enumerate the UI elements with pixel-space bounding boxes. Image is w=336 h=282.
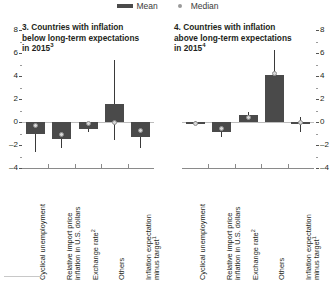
chart-legend: Mean Median: [0, 2, 336, 11]
chart-panel-3: 3. Countries with inflation below long-t…: [0, 18, 168, 282]
median-dot: [33, 123, 38, 128]
y-tick-label: 8: [320, 26, 324, 34]
y-tick-mark: [316, 145, 319, 146]
category-label-text: Inflation expectation minus target: [304, 214, 321, 280]
y-minor-tick: [316, 65, 318, 66]
category-label-text: Cyclical unemployment: [38, 204, 47, 280]
median-dot: [86, 121, 91, 126]
category-label-text: Others: [117, 258, 126, 280]
legend-label-median: Median: [191, 2, 219, 11]
mean-swatch-icon: [117, 4, 133, 8]
x-axis-category-label: Others: [118, 172, 126, 280]
y-tick-label: 0: [320, 118, 324, 126]
x-tick-mark: [48, 164, 49, 168]
y-tick-mark: [316, 30, 319, 31]
category-label-text: Exchange rate: [91, 232, 100, 280]
y-tick-label: 6: [320, 49, 324, 57]
category-labels-panel-3: Cyclical unemploymentRelative import pri…: [22, 170, 154, 282]
category-label-text: Others: [277, 258, 286, 280]
category-label-text: Cyclical unemployment: [198, 204, 207, 280]
category-label-superscript: 1: [311, 236, 317, 239]
category-label-superscript: 2: [250, 229, 256, 232]
median-dot: [193, 121, 198, 126]
x-tick-mark: [235, 164, 236, 168]
y-minor-tick: [316, 111, 318, 112]
legend-entry-median: Median: [172, 2, 219, 11]
category-label-superscript: 1: [151, 236, 157, 239]
legend-entry-mean: Mean: [117, 2, 157, 11]
median-dot: [298, 120, 303, 125]
y-axis-right: –4–202468: [316, 18, 336, 174]
chart-panel-4: 4. Countries with inflation above long-t…: [168, 18, 336, 282]
category-labels-panel-4: Cyclical unemploymentRelative import pri…: [182, 170, 314, 282]
category-label-superscript: 2: [90, 229, 96, 232]
x-axis-category-label: Exchange rate2: [252, 172, 260, 280]
x-axis-category-label: Inflation expectation minus target1: [145, 172, 162, 280]
x-axis-category-label: Others: [278, 172, 286, 280]
x-tick-mark: [101, 164, 102, 168]
y-tick-label: –2: [320, 141, 329, 149]
y-tick-mark: [316, 168, 319, 169]
plot-area-panel-3: [22, 18, 154, 174]
y-minor-tick: [316, 42, 318, 43]
median-dot: [138, 128, 143, 133]
median-dot-icon: [178, 4, 182, 8]
y-tick-mark: [316, 76, 319, 77]
plot-area-panel-4: [182, 18, 314, 174]
range-whisker: [114, 60, 115, 141]
category-label-text: Relative import price inflation in U.S. …: [225, 206, 242, 280]
x-axis-category-label: Relative import price inflation in U.S. …: [66, 172, 83, 280]
legend-label-mean: Mean: [136, 2, 157, 11]
y-axis-left: –4–202468: [0, 18, 20, 174]
y-tick-label: 8: [14, 26, 18, 34]
y-tick-label: 4: [320, 72, 324, 80]
y-tick-mark: [316, 99, 319, 100]
y-tick-mark: [316, 53, 319, 54]
y-tick-label: –2: [9, 141, 18, 149]
y-minor-tick: [316, 134, 318, 135]
x-tick-mark: [75, 164, 76, 168]
mean-bar: [265, 75, 284, 122]
x-axis-category-label: Cyclical unemployment: [39, 172, 47, 280]
x-tick-mark: [288, 164, 289, 168]
category-label-text: Exchange rate: [251, 232, 260, 280]
x-axis-category-label: Exchange rate2: [92, 172, 100, 280]
y-tick-label: 4: [14, 72, 18, 80]
y-minor-tick: [316, 157, 318, 158]
y-minor-tick: [316, 88, 318, 89]
category-label-text: Relative import price inflation in U.S. …: [65, 206, 82, 280]
x-tick-mark: [208, 164, 209, 168]
y-tick-mark: [316, 122, 319, 123]
y-tick-label: –4: [9, 164, 18, 172]
y-tick-label: 2: [14, 95, 18, 103]
axis-baseline: [22, 168, 154, 169]
x-tick-mark: [261, 164, 262, 168]
chart-figure: Mean Median 3. Countries with inflation …: [0, 0, 336, 282]
x-axis-category-label: Inflation expectation minus target1: [305, 172, 322, 280]
y-tick-label: –4: [320, 164, 329, 172]
x-tick-mark: [128, 164, 129, 168]
y-tick-label: 6: [14, 49, 18, 57]
footer-rule: [4, 276, 44, 277]
x-axis-category-label: Cyclical unemployment: [199, 172, 207, 280]
median-dot: [112, 120, 117, 125]
y-tick-label: 2: [320, 95, 324, 103]
category-label-text: Inflation expectation minus target: [144, 214, 161, 280]
axis-baseline: [182, 168, 314, 169]
x-axis-category-label: Relative import price inflation in U.S. …: [226, 172, 243, 280]
y-tick-label: 0: [14, 118, 18, 126]
